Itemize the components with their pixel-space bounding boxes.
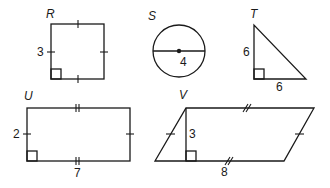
right-angle-marker xyxy=(27,151,37,161)
vertical-leg-label: 6 xyxy=(243,45,250,59)
figure-v-name: V xyxy=(179,88,188,102)
figure-u-name: U xyxy=(24,89,33,103)
side-label: 3 xyxy=(37,45,44,59)
geometry-figures: R 3 S 4 T 6 6 U 2 7 V xyxy=(0,0,330,188)
figure-s-name: S xyxy=(148,9,156,23)
length-label: 7 xyxy=(74,166,81,180)
figure-r-square: R 3 xyxy=(37,7,108,83)
figure-r-name: R xyxy=(46,7,55,21)
figure-t-name: T xyxy=(250,7,259,21)
figure-t-triangle: T 6 6 xyxy=(243,7,306,94)
base-label: 8 xyxy=(221,165,228,179)
square-outline xyxy=(51,24,104,79)
figure-u-rectangle: U 2 7 xyxy=(13,89,134,180)
right-angle-marker xyxy=(51,69,61,79)
height-label: 3 xyxy=(189,127,196,141)
width-label: 2 xyxy=(13,127,20,141)
center-point xyxy=(177,49,181,53)
diameter-label: 4 xyxy=(180,55,187,69)
right-angle-marker xyxy=(254,69,264,79)
right-angle-marker xyxy=(186,151,196,161)
horizontal-leg-label: 6 xyxy=(276,80,283,94)
parallelogram-outline xyxy=(155,108,314,161)
triangle-outline xyxy=(254,25,306,79)
figure-s-circle: S 4 xyxy=(148,9,205,77)
rectangle-outline xyxy=(27,108,130,161)
figure-v-parallelogram: V 3 8 xyxy=(155,88,314,179)
